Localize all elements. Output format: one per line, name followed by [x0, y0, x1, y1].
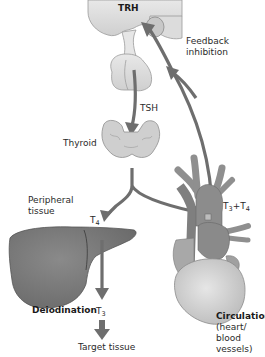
target-tissue-label: Target tissue: [77, 342, 136, 352]
t3-t4-label: T3+T4: [222, 201, 250, 213]
t3-to-target-arrow: [94, 320, 110, 340]
circulation-line2: (heart/: [216, 322, 247, 332]
peripheral-label-line1: Peripheral: [28, 195, 74, 205]
deiodination-label: Deiodination: [32, 305, 97, 315]
circulation-label: Circulation: [216, 311, 265, 321]
thyroid-label: Thyroid: [62, 138, 97, 148]
trh-label: TRH: [118, 3, 139, 13]
pituitary-gland: [111, 30, 152, 91]
t3-label: T3: [95, 306, 106, 318]
feedback-label-line2: inhibition: [186, 47, 228, 57]
feedback-label-line1: Feedback: [186, 36, 230, 46]
circulation-line4: vessels): [216, 344, 252, 354]
liver: [9, 227, 136, 308]
tsh-label: TSH: [139, 103, 158, 113]
peripheral-label-line2: tissue: [28, 206, 55, 216]
thyroid-regulation-diagram: TRH TSH Thyroid Feedback inhibition Peri…: [0, 0, 265, 357]
circulation-line3: blood: [216, 333, 241, 343]
t4-label: T4: [89, 215, 100, 227]
